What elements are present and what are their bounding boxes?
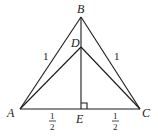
segment-ad [20, 47, 81, 109]
label-a: A [6, 106, 15, 120]
length-ae-numerator: 1 [50, 111, 55, 121]
label-e: E [75, 112, 84, 126]
label-d: D [70, 36, 80, 50]
length-ae: 1 2 [49, 111, 56, 132]
length-ec-numerator: 1 [113, 111, 118, 121]
label-c: C [142, 106, 151, 120]
segment-bc [81, 17, 140, 109]
label-b: B [77, 2, 85, 16]
length-ec-denominator: 2 [113, 122, 118, 132]
length-ae-denominator: 2 [50, 122, 55, 132]
length-ab: 1 [43, 50, 49, 62]
right-angle-marker [81, 103, 87, 109]
segment-ab [20, 17, 81, 109]
segment-dc [81, 47, 140, 109]
length-ec: 1 2 [112, 111, 119, 132]
length-bc: 1 [114, 50, 120, 62]
triangle-diagram: B D A E C 1 1 1 2 1 2 [0, 0, 158, 138]
